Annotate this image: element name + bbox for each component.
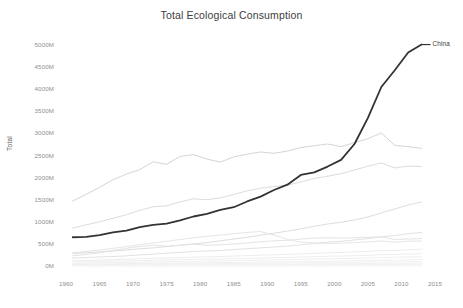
series-label-china: China xyxy=(433,40,450,47)
series-line-highlighted xyxy=(73,45,422,238)
series-line-background xyxy=(73,202,422,254)
series-line-background xyxy=(73,232,422,258)
series-line-background xyxy=(73,163,422,228)
plot-area xyxy=(0,0,463,308)
series-line-background xyxy=(73,232,422,253)
series-lines xyxy=(73,45,422,266)
chart-container: Total Ecological Consumption Total 5000M… xyxy=(0,0,463,308)
